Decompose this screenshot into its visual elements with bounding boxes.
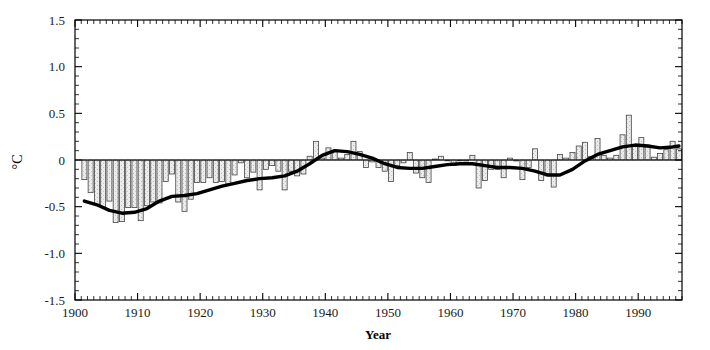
bar: [670, 141, 675, 160]
bar: [201, 160, 206, 182]
bar: [614, 155, 619, 160]
bar: [276, 160, 281, 171]
bar: [395, 160, 400, 166]
bar: [363, 160, 368, 167]
bar: [426, 160, 431, 182]
bar: [470, 155, 475, 160]
bar: [351, 141, 356, 160]
bar: [345, 154, 350, 160]
bar: [307, 156, 312, 160]
x-tick-label: 1930: [250, 305, 276, 320]
bar: [263, 160, 268, 169]
y-tick-label: 0.5: [49, 106, 65, 121]
x-tick-label: 1900: [62, 305, 88, 320]
bar: [144, 160, 149, 206]
y-tick-label: 1.0: [49, 59, 65, 74]
bar: [126, 160, 131, 208]
bar: [232, 160, 237, 175]
bar: [182, 160, 187, 211]
bar: [601, 155, 606, 160]
bar: [157, 160, 162, 203]
bar: [213, 160, 218, 182]
bar: [389, 160, 394, 181]
bar: [169, 160, 174, 174]
bar: [195, 160, 200, 182]
bar: [526, 160, 531, 167]
bar: [576, 146, 581, 160]
y-tick-label: -0.5: [44, 199, 65, 214]
y-tick-label: 1.5: [49, 13, 65, 28]
y-tick-label: -1.0: [44, 246, 65, 261]
y-axis-title: °C: [10, 155, 25, 170]
bar: [163, 160, 168, 181]
bar: [82, 160, 87, 180]
bar: [88, 160, 93, 193]
x-tick-label: 1910: [125, 305, 151, 320]
bar: [414, 160, 419, 173]
bar: [664, 150, 669, 160]
bar: [220, 160, 225, 181]
x-tick-label: 1980: [563, 305, 589, 320]
bar: [251, 160, 256, 172]
bar: [633, 145, 638, 160]
climate-anomaly-chart: 1900191019201930194019501960197019801990…: [0, 0, 710, 350]
bar: [639, 138, 644, 160]
x-tick-label: 1920: [187, 305, 213, 320]
x-tick-label: 1960: [437, 305, 463, 320]
x-tick-label: 1990: [625, 305, 651, 320]
y-tick-label: -1.5: [44, 293, 65, 308]
bar: [245, 160, 250, 178]
bar: [270, 160, 275, 166]
bar: [207, 160, 212, 178]
y-tick-label: 0: [59, 153, 66, 168]
bar: [658, 153, 663, 160]
chart-canvas: 1900191019201930194019501960197019801990…: [0, 0, 710, 350]
bar: [288, 160, 293, 171]
x-axis-title: Year: [365, 327, 391, 342]
bar: [132, 160, 137, 208]
bar: [626, 115, 631, 160]
bar: [557, 154, 562, 160]
bar: [107, 160, 112, 201]
bar: [570, 153, 575, 160]
bar: [539, 160, 544, 181]
bar: [101, 160, 106, 208]
x-tick-label: 1970: [500, 305, 526, 320]
bar: [407, 153, 412, 160]
bar: [94, 160, 99, 205]
bar: [257, 160, 262, 190]
bar: [439, 156, 444, 160]
bar: [226, 160, 231, 184]
bar: [532, 149, 537, 160]
bar: [583, 142, 588, 160]
x-tick-label: 1950: [375, 305, 401, 320]
bar: [151, 160, 156, 202]
x-tick-label: 1940: [312, 305, 338, 320]
bar: [482, 160, 487, 181]
